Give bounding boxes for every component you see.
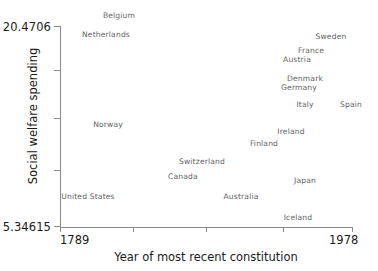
data-point-label-australia: Australia: [224, 192, 259, 201]
x-axis-tick-label-min: 1789: [60, 233, 89, 247]
x-axis-tick-2: [206, 227, 207, 232]
data-point-label-italy: Italy: [296, 100, 313, 109]
data-point-label-spain: Spain: [340, 100, 362, 109]
data-point-label-netherlands: Netherlands: [82, 30, 130, 39]
x-axis-title: Year of most recent constitution: [60, 250, 352, 264]
y-axis-tick-1: [54, 70, 60, 71]
y-axis-tick-0: [54, 26, 60, 27]
y-axis-tick-2: [54, 118, 60, 119]
x-axis-tick-1: [133, 227, 134, 232]
x-axis-tick-4: [352, 227, 353, 232]
data-point-label-iceland: Iceland: [284, 213, 313, 222]
data-point-label-austria: Austria: [283, 55, 311, 64]
data-point-label-finland: Finland: [250, 139, 278, 148]
data-point-label-belgium: Belgium: [103, 11, 135, 20]
data-point-label-canada: Canada: [168, 172, 198, 181]
data-point-label-ireland: Ireland: [277, 127, 304, 136]
x-axis-tick-3: [283, 227, 284, 232]
data-point-label-norway: Norway: [93, 120, 123, 129]
y-axis-title: Social welfare spending: [26, 21, 40, 211]
data-point-label-germany: Germany: [281, 83, 317, 92]
data-point-label-denmark: Denmark: [287, 74, 323, 83]
y-axis-tick-label-min: 5.34615: [3, 220, 51, 234]
data-point-label-japan: Japan: [294, 176, 316, 185]
x-axis-tick-label-max: 1978: [329, 233, 358, 247]
data-point-label-sweden: Sweden: [316, 32, 347, 41]
data-point-label-france: France: [298, 46, 324, 55]
data-point-label-switzerland: Switzerland: [179, 157, 225, 166]
y-axis-tick-3: [54, 170, 60, 171]
data-point-label-united-states: United States: [61, 192, 114, 201]
scatter-plot-figure: 20.4706 5.34615 1789 1978 Social welfare…: [0, 0, 378, 271]
x-axis-tick-0: [60, 227, 61, 232]
